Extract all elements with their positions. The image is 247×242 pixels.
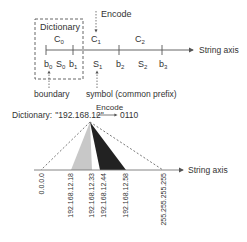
code-value: 0110 bbox=[120, 110, 139, 120]
axis-label-bottom: String axis bbox=[188, 165, 228, 175]
tick-label-1: 192.168.12.18 bbox=[67, 173, 74, 218]
axis-label: String axis bbox=[199, 45, 239, 55]
dictionary-label: Dictionary bbox=[40, 22, 81, 32]
top-diagram: Dictionary Encode String axis C0 C1 C2 b… bbox=[34, 9, 239, 99]
code-c2: C2 bbox=[135, 34, 146, 45]
bottom-diagram: Dictionary:"192.168.12" Encode 0110 Stri… bbox=[12, 103, 228, 226]
symbol-s0: S0 bbox=[56, 59, 66, 70]
tick-label-0: 0.0.0.0 bbox=[38, 173, 45, 195]
boundary-caption: boundary bbox=[34, 89, 70, 99]
encode-label: Encode bbox=[101, 9, 132, 19]
tick-label-2: 192.168.12.33 bbox=[88, 173, 95, 218]
dictionary-prefix: Dictionary:"192.168.12" bbox=[12, 110, 104, 120]
symbol-s2: S2 bbox=[138, 59, 148, 70]
dark-wedge bbox=[90, 122, 126, 170]
tick-label-4: 192.168.12.58 bbox=[122, 173, 129, 218]
symbol-caption: symbol (common prefix) bbox=[86, 89, 177, 99]
light-wedge bbox=[71, 122, 92, 170]
boundary-b0: b0 bbox=[44, 59, 53, 70]
boundary-b3: b3 bbox=[159, 59, 168, 70]
tick-label-5: 255.255.255.255 bbox=[160, 173, 167, 226]
symbol-s1: S1 bbox=[93, 59, 103, 70]
diagram-canvas: Dictionary Encode String axis C0 C1 C2 b… bbox=[0, 0, 247, 242]
code-c1: C1 bbox=[91, 34, 102, 45]
code-c0: C0 bbox=[54, 34, 65, 45]
tick-label-3: 192.168.12.44 bbox=[100, 173, 107, 218]
boundary-b1: b1 bbox=[69, 59, 78, 70]
boundary-b2: b2 bbox=[116, 59, 125, 70]
